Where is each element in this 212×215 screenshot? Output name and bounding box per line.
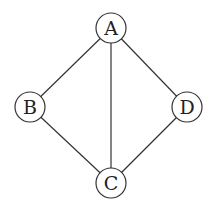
edge-b-c <box>30 107 111 183</box>
edges-layer <box>30 28 187 183</box>
graph-diagram: ABCD <box>0 0 212 215</box>
node-label: D <box>179 96 194 118</box>
node-b: B <box>15 92 45 122</box>
edge-a-d <box>111 28 187 107</box>
node-c: C <box>96 168 126 198</box>
node-label: C <box>104 172 119 194</box>
edge-a-b <box>30 28 111 107</box>
edge-d-c <box>111 107 187 183</box>
node-label: A <box>103 17 118 39</box>
nodes-layer: ABCD <box>15 13 202 198</box>
node-label: B <box>23 96 37 118</box>
node-a: A <box>96 13 126 43</box>
node-d: D <box>172 92 202 122</box>
